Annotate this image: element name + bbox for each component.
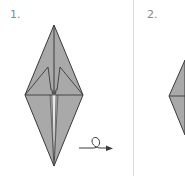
step-1-figure bbox=[25, 25, 83, 166]
turn-over-arrow-icon bbox=[79, 137, 113, 151]
step-2-figure bbox=[169, 60, 185, 135]
origami-diagram bbox=[0, 0, 185, 176]
diamond-partial bbox=[169, 60, 185, 135]
